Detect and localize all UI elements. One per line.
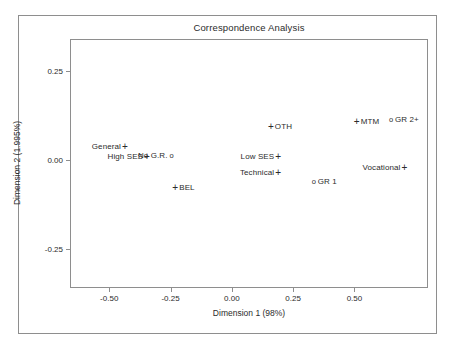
x-axis-tick [109,288,110,292]
plus-marker-icon: + [268,122,274,132]
data-point-label: OTH [275,123,292,131]
plus-marker-icon: + [275,152,281,162]
data-point-label: Vocational [363,164,401,172]
plot-area: +General+High SESoNo G.R.+BEL+OTH+Low SE… [71,40,427,287]
plus-marker-icon: + [122,142,128,152]
x-axis-tick-label: 0.25 [285,294,301,303]
chart-title: Correspondence Analysis [70,22,428,33]
data-point-label: GR 2+ [395,116,419,124]
plus-marker-icon: + [275,168,281,178]
y-axis-tick [66,249,70,250]
x-axis-tick [354,288,355,292]
data-point-label: Low SES [241,153,275,161]
data-point-label: Technical [240,169,274,177]
plus-marker-icon: + [402,163,408,173]
x-axis-tick-label: -0.25 [161,294,179,303]
plus-marker-icon: + [354,117,360,127]
x-axis-tick-label: 0.50 [347,294,363,303]
x-axis-tick-label: -0.50 [100,294,118,303]
y-axis-tick [66,160,70,161]
circle-marker-icon: o [389,116,393,124]
data-point-label: MTM [361,118,380,126]
x-axis-tick [232,288,233,292]
data-point-label: General [92,143,121,151]
y-axis-title: Dimension 2 (1.995%) [12,121,22,205]
y-axis-tick-label: 0.25 [47,67,63,76]
circle-marker-icon: o [169,152,173,160]
x-axis-tick [293,288,294,292]
x-axis-title: Dimension 1 (98%) [70,308,428,318]
y-axis-tick [66,71,70,72]
y-axis-tick-label: -0.25 [45,244,63,253]
plot-frame: +General+High SESoNo G.R.+BEL+OTH+Low SE… [70,39,428,288]
y-axis-tick-label: 0.00 [47,155,63,164]
x-axis-tick-label: 0.00 [224,294,240,303]
plus-marker-icon: + [172,183,178,193]
figure-root: Correspondence Analysis +General+High SE… [0,0,453,351]
circle-marker-icon: o [312,179,316,187]
data-point-label: No G.R. [138,152,168,160]
data-point-label: BEL [179,184,194,192]
data-point-label: GR 1 [318,178,337,186]
x-axis-tick [171,288,172,292]
